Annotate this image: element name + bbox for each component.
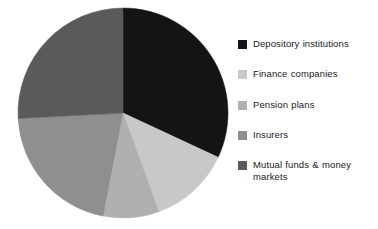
legend-swatch-icon xyxy=(238,101,247,110)
legend-label: Mutual funds & money markets xyxy=(253,159,378,182)
legend-label: Insurers xyxy=(253,129,288,141)
legend-swatch-icon xyxy=(238,40,247,49)
pie-slice-group xyxy=(18,8,228,218)
pie-chart-figure: Depository institutions Finance companie… xyxy=(0,0,378,229)
pie-plot-area xyxy=(0,0,236,229)
legend-label: Depository institutions xyxy=(253,38,349,50)
legend-label: Finance companies xyxy=(253,68,338,80)
legend-label: Pension plans xyxy=(253,99,314,111)
legend-swatch-icon xyxy=(238,161,247,170)
legend-item-depository-institutions[interactable]: Depository institutions xyxy=(238,38,378,50)
legend-item-mutual-funds-money-markets[interactable]: Mutual funds & money markets xyxy=(238,159,378,182)
legend-item-finance-companies[interactable]: Finance companies xyxy=(238,68,378,80)
legend-swatch-icon xyxy=(238,131,247,140)
pie-slice[interactable] xyxy=(18,8,123,119)
chart-legend: Depository institutions Finance companie… xyxy=(236,0,378,229)
legend-item-pension-plans[interactable]: Pension plans xyxy=(238,99,378,111)
pie-svg xyxy=(0,0,236,229)
legend-item-insurers[interactable]: Insurers xyxy=(238,129,378,141)
legend-swatch-icon xyxy=(238,70,247,79)
